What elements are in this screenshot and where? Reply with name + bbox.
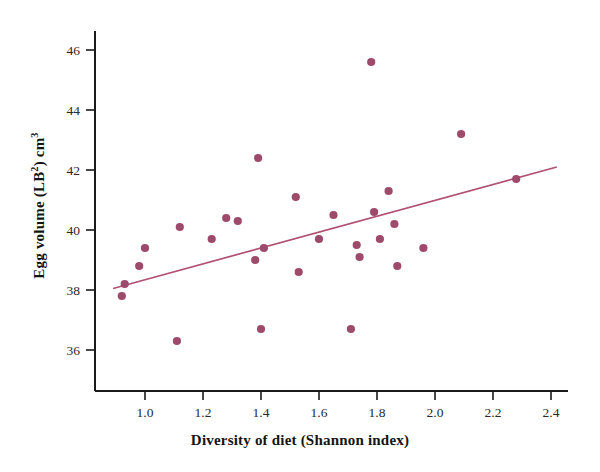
data-point: [257, 325, 265, 333]
x-tick-label: 2.4: [543, 405, 560, 420]
data-point: [393, 262, 401, 270]
y-axis-title-sup1: 2: [29, 166, 40, 171]
y-tick-label: 46: [67, 43, 81, 58]
data-point: [176, 223, 184, 231]
y-axis-title: Egg volume (LB2) cm3: [29, 86, 48, 326]
y-axis-title-sup2: 3: [29, 132, 40, 137]
x-tick-label: 1.8: [369, 405, 386, 420]
x-tick-label: 2.2: [485, 405, 502, 420]
data-point: [329, 211, 337, 219]
data-point: [121, 280, 129, 288]
data-point: [208, 235, 216, 243]
data-point: [173, 337, 181, 345]
x-tick-label: 1.4: [253, 405, 270, 420]
data-point: [254, 154, 262, 162]
data-point: [141, 244, 149, 252]
x-axis-ticks: 1.01.21.41.61.82.02.22.4: [137, 391, 560, 420]
data-point: [370, 208, 378, 216]
y-tick-label: 44: [67, 103, 81, 118]
data-point: [135, 262, 143, 270]
y-axis-title-prefix: Egg volume (LB: [31, 172, 47, 279]
data-point: [385, 187, 393, 195]
data-point: [118, 292, 126, 300]
x-tick-label: 1.0: [137, 405, 154, 420]
data-point: [251, 256, 259, 264]
y-tick-label: 42: [67, 163, 81, 178]
y-tick-label: 38: [67, 283, 81, 298]
data-point: [419, 244, 427, 252]
data-point: [260, 244, 268, 252]
plot-canvas: 363840424446 1.01.21.41.61.82.02.22.4: [0, 0, 600, 472]
data-point: [353, 241, 361, 249]
x-axis-title: Diversity of diet (Shannon index): [0, 432, 600, 449]
y-tick-label: 36: [67, 343, 81, 358]
data-point: [315, 235, 323, 243]
data-point: [390, 220, 398, 228]
data-point: [367, 58, 375, 66]
x-tick-label: 2.0: [427, 405, 444, 420]
data-point: [222, 214, 230, 222]
data-point: [457, 130, 465, 138]
data-point: [356, 253, 364, 261]
x-tick-label: 1.6: [311, 405, 328, 420]
data-point: [376, 235, 384, 243]
y-axis-title-middle: ) cm: [31, 138, 47, 167]
data-point: [292, 193, 300, 201]
data-point: [512, 175, 520, 183]
data-point: [234, 217, 242, 225]
x-tick-label: 1.2: [195, 405, 212, 420]
data-point: [347, 325, 355, 333]
scatter-plot-figure: 363840424446 1.01.21.41.61.82.02.22.4 Di…: [0, 0, 600, 472]
data-point: [295, 268, 303, 276]
data-points: [118, 58, 521, 345]
y-tick-label: 40: [67, 223, 81, 238]
y-axis-ticks: 363840424446: [67, 43, 96, 358]
